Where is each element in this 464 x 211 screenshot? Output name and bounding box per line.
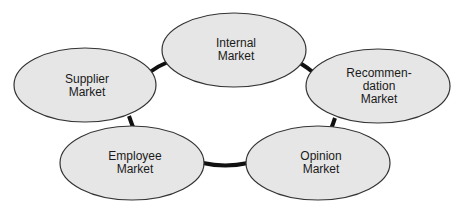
label-employee-market: Employee Market — [108, 150, 161, 176]
label-internal-market: Internal Market — [216, 37, 256, 63]
label-recommendation-market: Recommen- dation Market — [346, 67, 411, 106]
connector-supplier-internal — [150, 62, 168, 72]
label-opinion-market: Opinion Market — [300, 150, 341, 176]
connector-employee-supplier — [129, 116, 133, 127]
label-supplier-market: Supplier Market — [65, 73, 109, 99]
market-ring-diagram — [0, 0, 464, 211]
connector-opinion-employee — [203, 163, 248, 166]
